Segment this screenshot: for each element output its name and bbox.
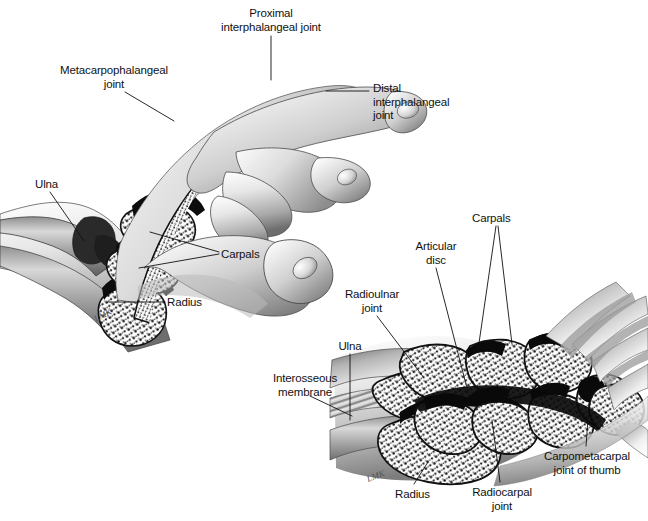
upper-hand-illustration: LMK bbox=[0, 85, 427, 352]
lower-wrist-illustration: LMK bbox=[330, 282, 648, 486]
leader-carpals-lower-a bbox=[478, 226, 496, 350]
leader-carpals-lower-b bbox=[498, 226, 512, 344]
anatomy-figure: LMK bbox=[0, 0, 648, 521]
illustration-canvas: LMK bbox=[0, 0, 648, 521]
leader-mcp bbox=[125, 92, 174, 121]
